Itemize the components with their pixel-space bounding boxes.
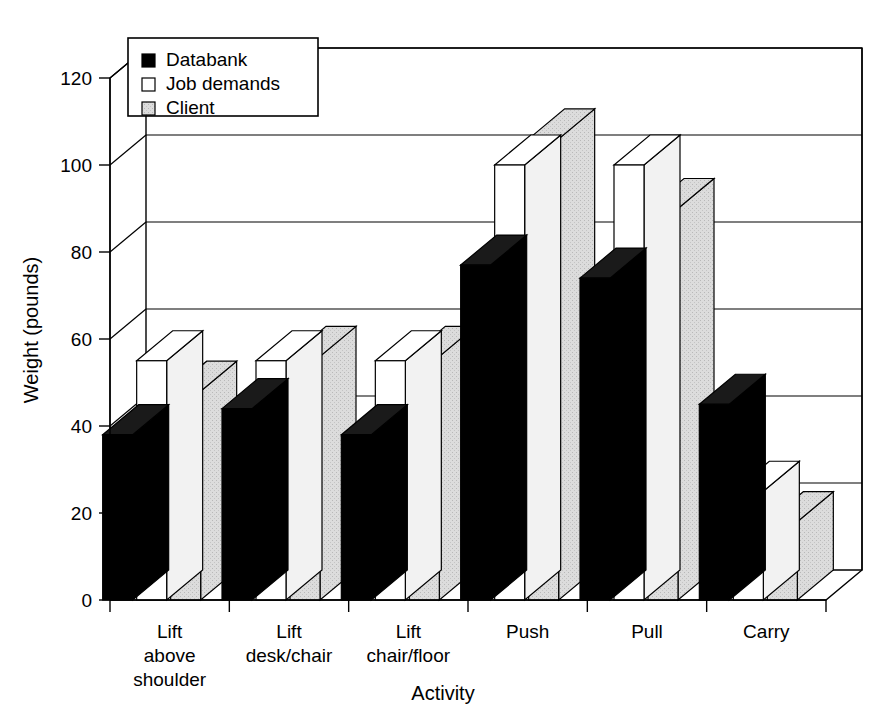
y-axis-title: Weight (pounds) <box>20 257 42 403</box>
x-category-label-5: Carry <box>743 621 790 642</box>
bar-5-0 <box>699 374 765 600</box>
x-category-label-2: Lift <box>396 621 422 642</box>
bar-3-0-front <box>461 265 491 600</box>
bar-5-0-side <box>729 374 765 600</box>
y-tick-label-0: 0 <box>81 590 92 611</box>
legend-label-1: Job demands <box>166 73 280 94</box>
y-tick-label-120: 120 <box>60 68 92 89</box>
legend[interactable]: DatabankJob demandsClient <box>128 38 318 118</box>
legend-label-2: Client <box>166 97 215 118</box>
bar-5-0-front <box>699 404 729 600</box>
x-category-label-0: above <box>144 645 196 666</box>
bar-1-1-side <box>286 331 322 600</box>
bar-4-0-side <box>610 248 646 600</box>
depth-connector-80 <box>110 222 146 252</box>
x-category-label-0: shoulder <box>133 669 207 690</box>
legend-swatch-1 <box>142 78 155 91</box>
bar-3-0 <box>461 235 527 600</box>
bar-0-0-side <box>133 405 169 600</box>
bar-0-0-front <box>103 435 133 600</box>
bar-chart-figure: 020406080100120 LiftaboveshoulderLiftdes… <box>0 0 876 723</box>
x-category-labels-group: LiftaboveshoulderLiftdesk/chairLiftchair… <box>133 621 790 690</box>
y-tick-label-60: 60 <box>71 329 92 350</box>
depth-connector-100 <box>110 135 146 165</box>
x-category-label-4: Pull <box>631 621 663 642</box>
x-axis-title: Activity <box>411 682 474 704</box>
legend-label-0: Databank <box>166 49 248 70</box>
bar-4-0 <box>580 248 646 600</box>
bar-2-0-side <box>371 405 407 600</box>
y-tick-labels-group: 020406080100120 <box>60 68 92 611</box>
bar-1-0-side <box>252 379 288 600</box>
y-tick-label-20: 20 <box>71 503 92 524</box>
x-category-label-3: Push <box>506 621 549 642</box>
x-category-label-2: chair/floor <box>367 645 451 666</box>
bar-0-0 <box>103 405 169 600</box>
bar-2-0 <box>341 405 407 600</box>
bar-4-0-front <box>580 278 610 600</box>
legend-swatch-0 <box>142 54 155 67</box>
y-tick-label-40: 40 <box>71 416 92 437</box>
legend-swatch-2 <box>142 102 155 115</box>
x-category-label-1: Lift <box>276 621 302 642</box>
bar-1-0 <box>222 379 288 600</box>
bar-3-0-side <box>491 235 527 600</box>
depth-connector-60 <box>110 309 146 339</box>
x-category-label-0: Lift <box>157 621 183 642</box>
chart-canvas: 020406080100120 LiftaboveshoulderLiftdes… <box>0 0 876 723</box>
bar-2-0-front <box>341 435 371 600</box>
y-tick-label-80: 80 <box>71 242 92 263</box>
bar-0-1-side <box>167 331 203 600</box>
bar-4-1-side <box>644 135 680 600</box>
bar-3-1-side <box>525 135 561 600</box>
x-category-label-1: desk/chair <box>246 645 333 666</box>
bar-1-0-front <box>222 409 252 600</box>
y-tick-label-100: 100 <box>60 155 92 176</box>
bar-2-1-side <box>405 331 441 600</box>
